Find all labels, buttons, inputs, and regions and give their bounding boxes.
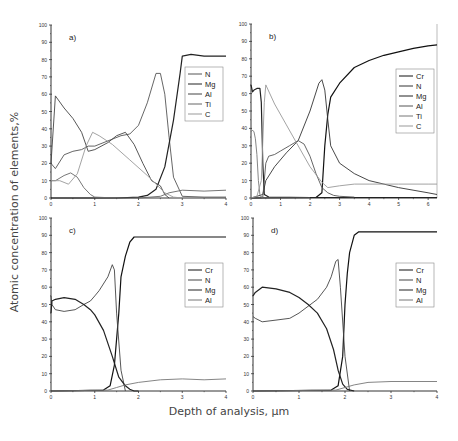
y-tick-label: 0: [244, 195, 247, 201]
x-tick-label: 1: [298, 394, 301, 400]
legend: CrNMgAlTiC: [396, 69, 434, 133]
series-cr: [51, 237, 226, 391]
legend-entry-ti: Ti: [205, 100, 211, 109]
legend-entry-al: Al: [416, 296, 423, 305]
y-tick-label: 70: [41, 74, 47, 80]
series-al: [251, 141, 354, 198]
y-tick-label: 40: [243, 319, 249, 325]
series-n: [253, 260, 350, 392]
y-tick-label: 80: [41, 250, 47, 256]
y-tick-label: 80: [243, 250, 249, 256]
y-tick-label: 40: [41, 126, 47, 132]
y-tick-label: 10: [41, 371, 47, 377]
y-tick-label: 10: [243, 371, 249, 377]
y-tick-label: 100: [39, 22, 48, 28]
y-tick-label: 20: [41, 160, 47, 166]
x-tick-label: 0: [250, 201, 253, 207]
x-tick-label: 3: [338, 201, 341, 207]
x-tick-label: 6: [427, 201, 430, 207]
x-tick-label: 3: [181, 394, 184, 400]
legend-entry-n: N: [416, 82, 421, 91]
y-tick-label: 40: [241, 125, 247, 131]
y-tick-label: 100: [241, 215, 250, 221]
panel-d: 010203040506070809010001234d)CrNMgAl: [241, 215, 439, 400]
y-tick-label: 0: [246, 388, 249, 394]
y-tick-label: 30: [243, 336, 249, 342]
y-tick-label: 90: [241, 38, 247, 44]
x-tick-label: 1: [279, 201, 282, 207]
y-tick-label: 80: [241, 56, 247, 62]
legend: CrNMgAl: [185, 263, 223, 307]
legend-entry-al: Al: [205, 90, 212, 99]
series-n: [51, 265, 125, 391]
y-tick-label: 40: [41, 319, 47, 325]
y-tick-label: 20: [241, 160, 247, 166]
y-tick-label: 0: [44, 388, 47, 394]
legend-entry-al: Al: [205, 296, 212, 305]
y-tick-label: 50: [41, 109, 47, 115]
x-tick-label: 2: [309, 201, 312, 207]
y-tick-label: 60: [41, 284, 47, 290]
x-tick-label: 5: [397, 201, 400, 207]
y-tick-label: 50: [243, 302, 249, 308]
legend-entry-n: N: [205, 276, 210, 285]
panel-c: 010203040506070809010001234c)CrNMgAl: [39, 215, 228, 400]
panel-b: 01020304050607080901000123456b)CrNMgAlTi…: [239, 21, 437, 207]
x-tick-label: 0: [252, 394, 255, 400]
legend-entry-mg: Mg: [205, 80, 215, 89]
x-tick-label: 1: [93, 394, 96, 400]
x-tick-label: 4: [225, 394, 228, 400]
y-tick-label: 90: [243, 232, 249, 238]
y-tick-label: 80: [41, 57, 47, 63]
y-tick-label: 30: [41, 336, 47, 342]
x-axis-title: Depth of analysis, μm: [0, 405, 458, 418]
x-tick-label: 4: [368, 201, 371, 207]
series-ti: [251, 130, 310, 198]
y-tick-label: 50: [241, 108, 247, 114]
legend-entry-cr: Cr: [416, 266, 424, 275]
y-tick-label: 60: [243, 284, 249, 290]
x-tick-label: 2: [137, 201, 140, 207]
legend-entry-mg: Mg: [416, 286, 426, 295]
y-tick-label: 100: [239, 21, 248, 27]
legend-entry-mg: Mg: [416, 92, 426, 101]
y-tick-label: 70: [41, 267, 47, 273]
y-tick-label: 60: [41, 91, 47, 97]
legend-entry-c: C: [205, 110, 211, 119]
y-tick-label: 70: [241, 73, 247, 79]
y-axis-title: Atomic concentration of elements,%: [8, 112, 21, 313]
legend-entry-n: N: [205, 70, 210, 79]
x-tick-label: 2: [344, 394, 347, 400]
y-tick-label: 10: [41, 178, 47, 184]
x-tick-label: 3: [390, 394, 393, 400]
series-cr: [253, 232, 437, 391]
legend-entry-ti: Ti: [416, 112, 422, 121]
x-tick-label: 0: [50, 201, 53, 207]
x-tick-label: 3: [181, 201, 184, 207]
series-ti: [51, 173, 226, 198]
legend-entry-c: C: [416, 122, 422, 131]
y-tick-label: 50: [41, 302, 47, 308]
legend-entry-al: Al: [416, 102, 423, 111]
x-tick-label: 4: [436, 394, 439, 400]
legend: CrNMgAl: [396, 263, 434, 307]
panel-a: 010203040506070809010001234a)NMgAlTiC: [39, 22, 228, 207]
x-tick-label: 4: [225, 201, 228, 207]
x-tick-label: 0: [50, 394, 53, 400]
x-tick-label: 2: [137, 394, 140, 400]
figure-canvas: 010203040506070809010001234a)NMgAlTiC 01…: [0, 0, 458, 441]
x-tick-label: 1: [93, 201, 96, 207]
y-tick-label: 60: [241, 91, 247, 97]
y-tick-label: 20: [243, 353, 249, 359]
panel-label: b): [269, 32, 276, 41]
panel-label: d): [271, 226, 278, 235]
panel-label: c): [69, 226, 76, 235]
y-tick-label: 0: [44, 195, 47, 201]
legend: NMgAlTiC: [185, 67, 223, 121]
legend-entry-n: N: [416, 276, 421, 285]
y-tick-label: 20: [41, 353, 47, 359]
y-tick-label: 100: [39, 215, 48, 221]
y-tick-label: 70: [243, 267, 249, 273]
legend-entry-cr: Cr: [205, 266, 213, 275]
y-tick-label: 90: [41, 39, 47, 45]
